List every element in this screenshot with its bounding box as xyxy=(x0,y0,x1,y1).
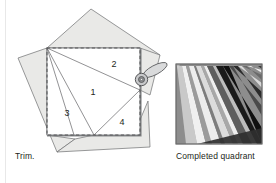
wedge-label-2: 2 xyxy=(111,59,116,69)
trim-diagram: 1 2 3 4 xyxy=(18,9,169,152)
wedge-label-3: 3 xyxy=(64,108,69,118)
caption-trim: Trim. xyxy=(15,151,35,161)
wedge-label-1: 1 xyxy=(90,87,95,97)
caption-completed-quadrant: Completed quadrant xyxy=(176,151,255,161)
wedge-label-4: 4 xyxy=(119,117,124,127)
rotary-cutter-pin xyxy=(140,78,142,80)
completed-quadrant-panel xyxy=(176,64,262,144)
